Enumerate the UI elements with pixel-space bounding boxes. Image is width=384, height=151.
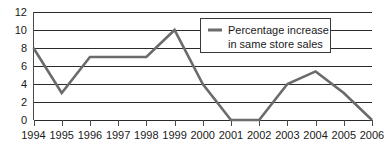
chart-canvas: 024681012 199419951996199719981999200020… [0,0,384,151]
x-tick-label-1997: 1997 [106,129,130,141]
x-tick-label-1996: 1996 [78,129,102,141]
x-tick-label-1994: 1994 [21,129,45,141]
x-tick-label-1995: 1995 [49,129,73,141]
legend-label-line1: Percentage increase [228,24,329,36]
x-tick-label-2003: 2003 [275,129,299,141]
x-tick-label-2000: 2000 [191,129,215,141]
x-tick-label-2002: 2002 [247,129,271,141]
y-tick-label-6: 6 [21,60,27,72]
x-tick-label-2004: 2004 [303,129,327,141]
legend-label-line2: in same store sales [228,38,323,50]
y-tick-label-12: 12 [15,6,27,18]
x-tick-label-2005: 2005 [332,129,356,141]
chart-legend: Percentage increase in same store sales [201,19,331,53]
y-tick-label-0: 0 [21,114,27,126]
y-tick-label-10: 10 [15,24,27,36]
x-axis-tick-labels: 1994199519961997199819992000200120022003… [21,129,384,141]
x-tick-label-1999: 1999 [162,129,186,141]
line-chart: 024681012 199419951996199719981999200020… [0,0,384,151]
x-tick-label-1998: 1998 [134,129,158,141]
x-tick-label-2001: 2001 [219,129,243,141]
y-tick-label-4: 4 [21,78,27,90]
y-axis-tick-labels: 024681012 [15,6,27,126]
x-tick-label-2006: 2006 [360,129,384,141]
y-tick-label-8: 8 [21,42,27,54]
y-tick-label-2: 2 [21,96,27,108]
